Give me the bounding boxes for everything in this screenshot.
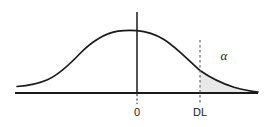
alpha-tail-shaded-region	[200, 71, 258, 94]
distribution-figure: 0 DL α	[0, 0, 270, 127]
alpha-region-label: α	[217, 49, 231, 62]
axis-label-dl: DL	[188, 106, 212, 118]
axis-label-zero: 0	[130, 106, 144, 118]
